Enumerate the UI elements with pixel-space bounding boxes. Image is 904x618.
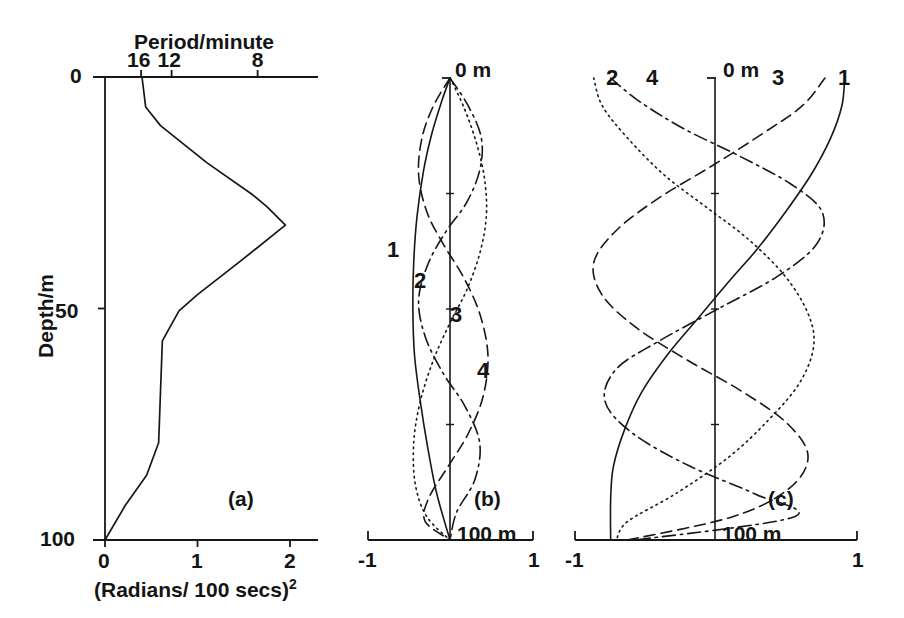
panel-c-curve-label-1: 1 <box>838 65 850 91</box>
panel-c-curve-mode-3 <box>593 78 825 540</box>
panel-c-tag: (c) <box>768 487 794 511</box>
panel-a-top-tick-8: 8 <box>252 48 264 72</box>
panel-c-curve-label-3: 3 <box>772 65 784 91</box>
panel-b-curve-label-1: 1 <box>387 237 399 263</box>
panel-b-curve-label-4: 4 <box>477 358 489 384</box>
panel-a-top-tick-12: 12 <box>158 48 181 72</box>
panel-b-tag: (b) <box>474 487 501 511</box>
figure-root: Period/minute 16 12 8 0 50 100 Depth/m 0… <box>0 0 904 618</box>
panel-c-curve-mode-2 <box>594 78 814 540</box>
panel-b-x-tick-1: 1 <box>528 548 540 572</box>
panel-a-tag: (a) <box>228 487 254 511</box>
panel-a-y-tick-0: 0 <box>70 64 82 88</box>
panel-a-bottom-tick-1: 1 <box>191 549 203 573</box>
panel-b-x-tick-minus1: -1 <box>358 548 377 572</box>
panel-a-art <box>93 70 318 547</box>
panel-a-bottom-axis-title-exponent: 2 <box>289 576 297 592</box>
panel-c-art <box>575 78 857 540</box>
panel-a-y-tick-100: 100 <box>40 527 75 551</box>
panel-a-y-axis-title: Depth/m <box>34 274 58 358</box>
panel-a-bottom-tick-0: 0 <box>98 549 110 573</box>
panel-c-curve-label-4: 4 <box>646 65 658 91</box>
panel-b-curve-label-2: 2 <box>414 268 426 294</box>
panel-c-bottom-label: 100 m <box>722 522 782 546</box>
panel-b-curve-label-3: 3 <box>450 302 462 328</box>
panel-c-curve-mode-1 <box>610 78 844 540</box>
panel-c-x-tick-1: 1 <box>852 548 864 572</box>
panel-b-top-label: 0 m <box>455 58 491 82</box>
panel-a-bottom-tick-2: 2 <box>284 549 296 573</box>
panel-a-top-tick-16: 16 <box>127 48 150 72</box>
panel-b-bottom-label: 100 m <box>457 522 517 546</box>
panel-c-top-label: 0 m <box>723 58 759 82</box>
panel-a-curve-n2 <box>105 77 285 540</box>
panel-a-bottom-axis-title: (Radians/ 100 secs)2 <box>94 576 297 602</box>
panel-a-bottom-axis-title-text: (Radians/ 100 secs) <box>94 578 289 601</box>
panel-c-x-tick-minus1: -1 <box>565 548 584 572</box>
panel-a-y-tick-50: 50 <box>55 299 78 323</box>
panel-c-curve-label-2: 2 <box>606 65 618 91</box>
